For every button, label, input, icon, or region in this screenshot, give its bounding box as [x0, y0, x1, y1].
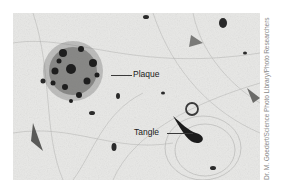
plaque-label: Plaque — [133, 70, 159, 79]
tangle-label: Tangle — [134, 128, 159, 137]
tangle-leader-line — [167, 133, 193, 134]
tissue-texture — [13, 13, 260, 180]
micrograph-photo — [13, 13, 260, 180]
plaque-leader-line — [111, 75, 132, 76]
photo-credit: Dr. M. Goedert/Science Photo Library/Pho… — [263, 18, 270, 180]
